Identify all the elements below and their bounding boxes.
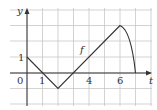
x-tick-label-6: 6 (117, 75, 123, 86)
x-tick-label-1: 1 (39, 75, 45, 86)
grid (10, 8, 152, 106)
y-axis-label: y (16, 5, 23, 16)
origin-label: 0 (17, 75, 23, 86)
x-axis-label: t (149, 75, 154, 86)
function-graph: y t f 0 1 1 4 6 (0, 0, 157, 110)
function-label: f (79, 44, 86, 55)
y-axis-arrow-icon (25, 8, 30, 14)
y-tick-label-1: 1 (18, 52, 24, 63)
x-tick-label-4: 4 (86, 75, 92, 86)
